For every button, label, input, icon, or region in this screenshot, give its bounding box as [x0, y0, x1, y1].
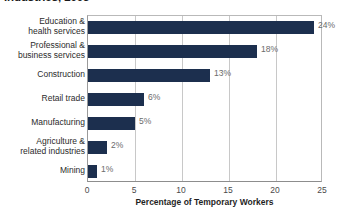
x-tick-label: 10 — [176, 185, 185, 195]
x-tick-label: 0 — [85, 185, 90, 195]
bar-row: 2% — [88, 141, 323, 154]
bar-row: 1% — [88, 165, 323, 178]
category-label: Manufacturing — [31, 118, 85, 128]
bar-value-label: 13% — [214, 68, 231, 78]
category-label: Professional & business services — [18, 41, 85, 60]
bar-row: 5% — [88, 117, 323, 130]
bar-value-label: 1% — [101, 164, 113, 174]
bar — [88, 69, 210, 82]
bar — [88, 45, 257, 58]
x-tick-label: 20 — [270, 185, 279, 195]
bar-row: 24% — [88, 21, 323, 34]
category-label: Agriculture & related industries — [20, 137, 85, 156]
x-axis-label: Percentage of Temporary Workers — [87, 197, 322, 207]
chart-title: Industries, 2005 — [4, 0, 89, 3]
bar-value-label: 18% — [261, 44, 278, 54]
bar-value-label: 5% — [139, 116, 151, 126]
bar — [88, 93, 144, 106]
bar-row: 18% — [88, 45, 323, 58]
bar-row: 13% — [88, 69, 323, 82]
x-tick-label: 5 — [132, 185, 137, 195]
category-label: Retail trade — [42, 94, 85, 104]
bar — [88, 141, 107, 154]
bars-layer: 24%18%13%6%5%2%1% — [88, 16, 321, 181]
category-label: Construction — [37, 70, 85, 80]
x-tick-label: 25 — [317, 185, 326, 195]
bar-value-label: 2% — [111, 140, 123, 150]
x-tick-label: 15 — [223, 185, 232, 195]
bar-value-label: 6% — [148, 92, 160, 102]
plot-area: 24%18%13%6%5%2%1% — [87, 15, 322, 182]
bar-row: 6% — [88, 93, 323, 106]
bar — [88, 117, 135, 130]
category-label: Mining — [60, 166, 85, 176]
bar-chart: Industries, 2005 24%18%13%6%5%2%1% Educa… — [0, 0, 338, 213]
bar — [88, 165, 97, 178]
category-label: Education & health services — [28, 17, 85, 36]
bar-value-label: 24% — [318, 20, 335, 30]
bar — [88, 21, 314, 34]
